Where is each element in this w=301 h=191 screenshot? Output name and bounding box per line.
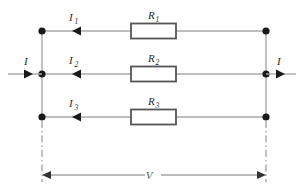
resistor-2-label: R [147, 52, 155, 64]
branch-1-left-node [38, 27, 45, 34]
resistor-1-body [131, 24, 176, 39]
input-current-arrow [24, 70, 33, 79]
branch-2-current-arrow [72, 70, 81, 79]
parallel-resistor-circuit-figure: I 1 I 2 I 3 R 1 R 2 R 3 I I V [0, 0, 301, 191]
branch-2-current-subscript: 2 [75, 60, 79, 69]
branch-2-current-label: I [68, 54, 74, 66]
resistor-3-label: R [147, 95, 155, 107]
branch-1-current-label: I [68, 11, 74, 23]
resistor-3-body [131, 110, 176, 125]
resistor-3-subscript: 3 [155, 101, 160, 110]
resistor-2-subscript: 2 [156, 58, 160, 67]
branch-3-right-node [262, 113, 269, 120]
resistor-1-label: R [147, 9, 155, 21]
branch-3-current-label: I [68, 97, 74, 109]
output-current-label: I [276, 55, 282, 67]
branch-3-current-arrow [72, 113, 81, 122]
resistor-1-subscript: 1 [156, 15, 160, 24]
voltage-label: V [146, 169, 154, 181]
voltage-dimension-arrow-right [257, 171, 266, 179]
branch-3-left-node [38, 113, 45, 120]
voltage-dimension-arrow-left [42, 171, 51, 179]
resistor-2-body [131, 67, 176, 82]
branch-1-current-subscript: 1 [75, 17, 79, 26]
output-current-arrow [276, 70, 285, 79]
branch-1-right-node [262, 27, 269, 34]
input-current-label: I [23, 55, 29, 67]
branch-1-current-arrow [72, 27, 81, 36]
branch-3-current-subscript: 3 [74, 103, 79, 112]
